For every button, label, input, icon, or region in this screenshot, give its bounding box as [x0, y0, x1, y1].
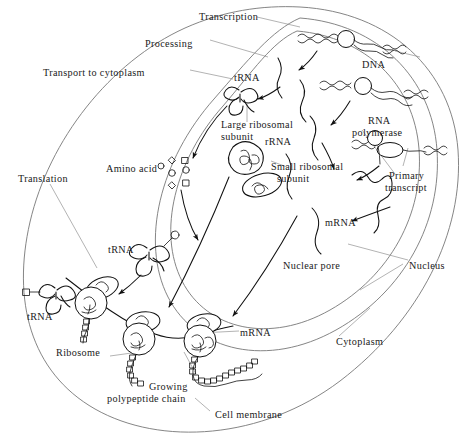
- large-ribosomal-subunit-shape: [228, 142, 263, 175]
- ribosome-3: [184, 311, 262, 386]
- diagram-canvas: Transcription Processing Transport to cy…: [0, 0, 465, 445]
- amino-acid-shapes: [158, 157, 189, 189]
- trna-cytoplasm-left-shape: [23, 285, 75, 315]
- primary-transcript-shape: [352, 171, 392, 233]
- label-mrna-nucleus: mRNA: [325, 217, 356, 228]
- ribosome-2: [123, 310, 161, 386]
- gene-expression-diagram: Transcription Processing Transport to cy…: [0, 0, 465, 445]
- nascent-transcript-2: [300, 80, 306, 122]
- trna-delivery-arrow: [119, 275, 141, 294]
- label-transport-to-cytoplasm: Transport to cytoplasm: [43, 67, 145, 78]
- label-primary-transcript-line1: Primary: [389, 170, 425, 181]
- label-amino-acid: Amino acid: [106, 163, 157, 174]
- label-growing-polypeptide-line1: Growing: [149, 381, 188, 392]
- label-processing: Processing: [145, 38, 193, 49]
- dna-polymerase-unit-2: [320, 78, 428, 106]
- label-nucleus: Nucleus: [409, 260, 445, 271]
- mrna-nucleus-shape: [312, 208, 321, 254]
- ribosome-1: [75, 272, 122, 343]
- nascent-transcript-1: [277, 58, 282, 98]
- label-nuclear-pore: Nuclear pore: [283, 260, 340, 271]
- polypeptide-chain-3: [190, 357, 262, 387]
- label-rna-polymerase-line1: RNA: [368, 115, 391, 126]
- label-rrna: rRNA: [265, 136, 292, 147]
- label-dna: DNA: [362, 59, 385, 70]
- label-ribosome: Ribosome: [56, 347, 100, 358]
- label-primary-transcript-line2: transcript: [385, 182, 427, 193]
- nascent-transcript-3: [310, 116, 318, 160]
- trna-nucleus-shape: [224, 87, 258, 115]
- label-trna-cytoplasm-mid: tRNA: [108, 244, 134, 255]
- trna-cytoplasm-mid-shape: [129, 231, 179, 276]
- label-large-ribosomal-line1: Large ribosomal: [221, 119, 293, 130]
- label-large-ribosomal-line2: subunit: [221, 131, 253, 142]
- label-small-ribosomal-line2: subunit: [277, 173, 309, 184]
- label-growing-polypeptide-line2: polypeptide chain: [107, 393, 186, 404]
- polypeptide-chain-2: [127, 355, 144, 386]
- label-translation: Translation: [18, 173, 68, 184]
- polypeptide-chain-1: [81, 319, 90, 343]
- label-cell-membrane: Cell membrane: [215, 409, 282, 420]
- label-transcription: Transcription: [199, 11, 258, 22]
- label-cytoplasm: Cytoplasm: [336, 336, 383, 347]
- label-rna-polymerase-line2: polymerase: [352, 127, 403, 138]
- label-small-ribosomal-line1: Small ribosomal: [271, 161, 343, 172]
- label-trna-nucleus: tRNA: [234, 72, 260, 83]
- label-trna-cytoplasm-left: tRNA: [27, 311, 53, 322]
- label-mrna-cytoplasm: mRNA: [240, 327, 271, 338]
